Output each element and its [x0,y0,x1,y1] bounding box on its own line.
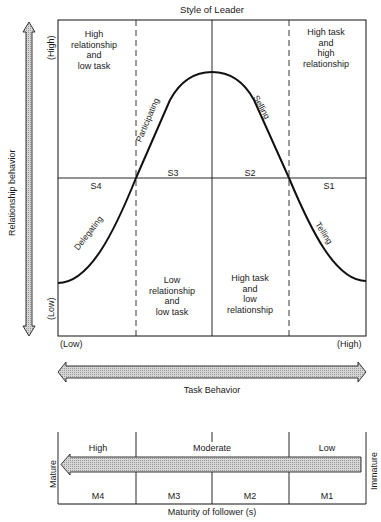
relationship-axis-label: Relationship behavior [7,149,17,236]
task-axis-arrow [58,362,366,382]
style-s1: S1 [323,181,334,192]
maturity-segment-m3: M3 [168,491,181,502]
quadrant-high-task-low-relationship: High task and low relationship [227,273,273,315]
maturity-segment-m4: M4 [92,491,105,502]
task-high-label: (High) [337,339,362,350]
maturity-level-moderate: Moderate [193,443,231,454]
style-s2: S2 [244,168,255,179]
maturity-level-high: High [89,443,108,454]
task-low-label: (Low) [60,339,83,350]
relationship-high-label: (High) [46,35,56,60]
relationship-low-label: (Low) [46,297,56,320]
style-s4: S4 [90,181,101,192]
style-s3: S3 [167,168,178,179]
quadrant-low-relationship-low-task: Low relationship and low task [149,275,195,317]
task-axis-label: Task Behavior [184,385,241,396]
maturity-segment-m1: M1 [321,491,334,502]
relationship-axis-arrow [23,22,35,336]
maturity-mature-label: Mature [48,460,58,488]
maturity-axis-label: Maturity of follower (s) [168,507,257,518]
quadrant-high-task-high-relationship: High task and high relationship [303,27,349,69]
quadrant-high-relationship-low-task: High relationship and low task [71,29,117,71]
maturity-level-low: Low [319,443,336,454]
maturity-immature-label: Immature [369,452,379,490]
diagram-title: Style of Leader [180,5,244,16]
maturity-segment-m2: M2 [244,491,257,502]
maturity-arrow [61,454,361,475]
